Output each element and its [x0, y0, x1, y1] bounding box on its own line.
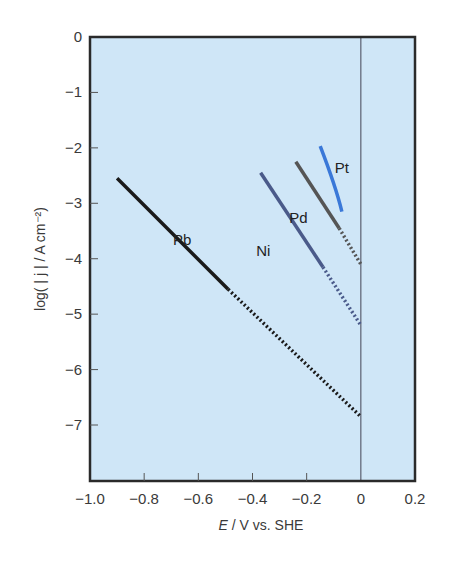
series-label-pd: Pd [289, 209, 307, 226]
plot-area [90, 37, 415, 481]
y-axis-title: log( | j | / A cm⁻²) [32, 207, 48, 311]
series-label-pt: Pt [335, 159, 350, 176]
x-tick-label: −0.8 [129, 490, 159, 507]
y-tick-label: −7 [65, 416, 82, 433]
x-tick-label: 0 [357, 490, 365, 507]
x-tick-label: −0.6 [184, 490, 214, 507]
polarization-chart: PbNiPdPt 0−1−2−3−4−5−6−7 −1.0−0.8−0.6−0.… [0, 0, 449, 569]
y-tick-label: −2 [65, 139, 82, 156]
y-tick-label: −1 [65, 83, 82, 100]
series-label-pb: Pb [173, 231, 191, 248]
y-tick-label: −3 [65, 194, 82, 211]
x-tick-label: −0.4 [238, 490, 268, 507]
y-tick-label: 0 [74, 28, 82, 45]
y-tick-label: −6 [65, 361, 82, 378]
x-tick-label: 0.2 [405, 490, 426, 507]
series-label-ni: Ni [256, 242, 270, 259]
x-tick-label: −0.2 [292, 490, 322, 507]
x-axis-title: E / V vs. SHE [219, 517, 304, 533]
y-tick-label: −4 [65, 250, 82, 267]
y-tick-label: −5 [65, 305, 82, 322]
x-tick-label: −1.0 [75, 490, 105, 507]
